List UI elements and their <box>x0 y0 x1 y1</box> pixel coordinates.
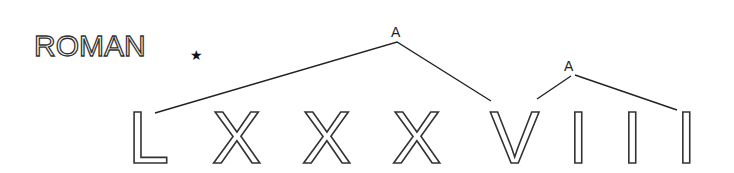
letter-i-1: I <box>568 96 589 173</box>
letter-x-2: X <box>302 96 351 173</box>
sub-node-label: A <box>564 58 574 74</box>
letter-i-3: I <box>676 96 697 173</box>
root-node-label: A <box>391 24 401 40</box>
letter-x-1: X <box>212 96 261 173</box>
title-roman: ROMAN <box>34 29 146 62</box>
letter-l: L <box>128 96 169 173</box>
letter-v: V <box>490 96 540 173</box>
sub-branch-left <box>537 76 571 99</box>
letter-x-3: X <box>392 96 441 173</box>
star-icon: ★ <box>190 47 203 63</box>
letter-i-2: I <box>622 96 643 173</box>
roman-numeral-tree-diagram: ROMAN ★ A A L X X X V I I I <box>0 0 734 173</box>
